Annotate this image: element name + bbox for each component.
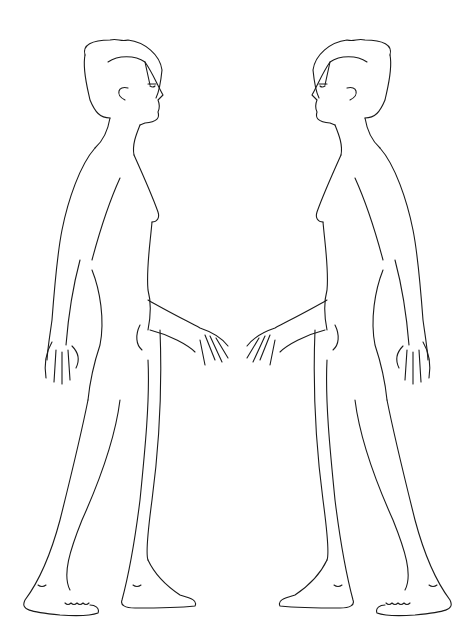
right-figure xyxy=(247,39,451,615)
illustration-canvas xyxy=(0,0,475,643)
figures-drawing xyxy=(0,0,475,643)
left-figure xyxy=(24,39,228,615)
